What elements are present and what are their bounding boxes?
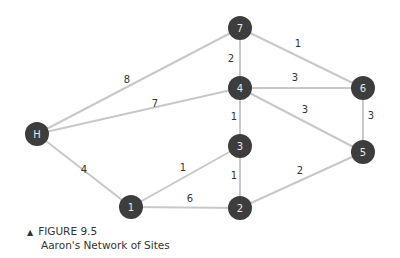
edge-weight-H-1: 4 xyxy=(81,164,87,175)
edge-7-6 xyxy=(240,28,363,88)
figure-caption: ▲FIGURE 9.5 Aaron's Network of Sites xyxy=(27,225,170,252)
node-2: 2 xyxy=(228,196,252,220)
weights-layer: 8741611213332 xyxy=(81,38,374,204)
edge-weight-7-4: 2 xyxy=(228,53,234,64)
edge-2-5 xyxy=(240,152,363,208)
network-graph: 8741611213332 H1234567 xyxy=(0,0,400,258)
node-label: 3 xyxy=(237,141,243,152)
node-label: 1 xyxy=(128,202,134,213)
edge-weight-1-3: 1 xyxy=(180,162,186,173)
nodes-layer: H1234567 xyxy=(25,16,375,220)
node-label: 2 xyxy=(237,203,243,214)
node-7: 7 xyxy=(228,16,252,40)
node-6: 6 xyxy=(351,76,375,100)
edge-1-2 xyxy=(131,207,240,208)
edge-weight-H-4: 7 xyxy=(152,98,158,109)
edge-4-5 xyxy=(240,88,363,152)
edge-weight-H-7: 8 xyxy=(124,74,130,85)
node-5: 5 xyxy=(351,140,375,164)
triangle-marker-icon: ▲ xyxy=(27,228,33,237)
node-4: 4 xyxy=(228,76,252,100)
node-1: 1 xyxy=(119,195,143,219)
node-label: 7 xyxy=(237,23,243,34)
figure-number: FIGURE 9.5 xyxy=(38,225,97,237)
edges-layer xyxy=(37,28,363,208)
node-label: H xyxy=(33,129,41,140)
edge-H-7 xyxy=(37,28,240,134)
edge-weight-4-5: 3 xyxy=(302,104,308,115)
edge-weight-6-5: 3 xyxy=(368,110,374,121)
figure-title: Aaron's Network of Sites xyxy=(27,239,170,252)
edge-weight-2-5: 2 xyxy=(297,165,303,176)
node-label: 4 xyxy=(237,83,243,94)
node-H: H xyxy=(25,122,49,146)
node-3: 3 xyxy=(228,134,252,158)
edge-weight-3-2: 1 xyxy=(231,170,237,181)
edge-weight-4-6: 3 xyxy=(292,72,298,83)
edge-weight-4-3: 1 xyxy=(231,111,237,122)
node-label: 6 xyxy=(360,83,366,94)
edge-H-4 xyxy=(37,88,240,134)
edge-weight-7-6: 1 xyxy=(295,38,301,49)
edge-weight-1-2: 6 xyxy=(187,193,193,204)
edge-1-3 xyxy=(131,146,240,207)
node-label: 5 xyxy=(360,147,366,158)
